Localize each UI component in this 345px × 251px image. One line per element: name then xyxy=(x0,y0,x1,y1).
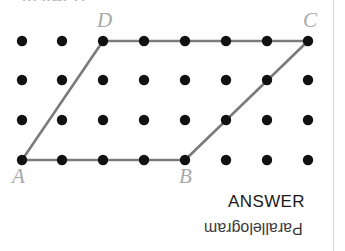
lattice-dot-r3-c2 xyxy=(98,155,108,165)
lattice-dot-r3-c5 xyxy=(221,155,231,165)
lattice-dot-r2-c1 xyxy=(57,115,67,125)
polygon-edge-layer xyxy=(22,41,308,160)
lattice-dot-r1-c6 xyxy=(262,75,272,85)
vertex-label-c: C xyxy=(303,10,317,31)
vertex-label-b: B xyxy=(179,166,192,187)
dot-grid-figure: ABCD xyxy=(0,0,345,251)
lattice-dot-r3-c3 xyxy=(139,155,149,165)
edge-D-A xyxy=(22,41,103,160)
lattice-dot-r0-c3 xyxy=(139,36,149,46)
lattice-dot-r1-c3 xyxy=(139,75,149,85)
lattice-dot-r1-c7 xyxy=(303,75,313,85)
lattice-dot-r2-c2 xyxy=(98,115,108,125)
lattice-dot-r2-c0 xyxy=(17,115,27,125)
lattice-dot-r0-c0 xyxy=(17,36,27,46)
vertex-label-a: A xyxy=(12,166,25,187)
lattice-dot-r2-c5 xyxy=(221,115,231,125)
lattice-dot-r1-c0 xyxy=(17,75,27,85)
edge-B-C xyxy=(185,41,308,160)
lattice-dot-r0-c2 xyxy=(98,36,108,46)
lattice-dot-r0-c1 xyxy=(57,36,67,46)
answer-heading: ANSWER xyxy=(228,192,305,212)
lattice-dot-r3-c6 xyxy=(262,155,272,165)
figure-canvas xyxy=(0,0,345,251)
lattice-dot-r2-c7 xyxy=(303,115,313,125)
lattice-dot-r1-c2 xyxy=(98,75,108,85)
lattice-dot-r1-c5 xyxy=(221,75,231,85)
lattice-dot-r0-c5 xyxy=(221,36,231,46)
answer-value: Parallelogram xyxy=(204,219,303,237)
lattice-dot-r1-c1 xyxy=(57,75,67,85)
lattice-dot-r3-c1 xyxy=(57,155,67,165)
lattice-dot-r3-c7 xyxy=(303,155,313,165)
lattice-dot-r2-c4 xyxy=(180,115,190,125)
lattice-dot-r0-c4 xyxy=(180,36,190,46)
lattice-dot-r2-c3 xyxy=(139,115,149,125)
lattice-dot-r2-c6 xyxy=(262,115,272,125)
worksheet-screenshot: b) ABCD ABCD ANSWER Parallelogram xyxy=(0,0,345,251)
lattice-dot-r1-c4 xyxy=(180,75,190,85)
lattice-dot-r0-c6 xyxy=(262,36,272,46)
lattice-dot-r0-c7 xyxy=(303,36,313,46)
vertex-label-d: D xyxy=(97,10,112,31)
